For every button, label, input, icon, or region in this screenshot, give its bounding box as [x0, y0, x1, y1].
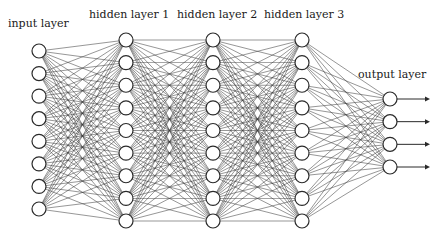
connection-edge — [302, 144, 390, 221]
hidden-1-neuron — [119, 146, 133, 160]
hidden-1-neuron — [119, 101, 133, 115]
output-arrows — [397, 97, 430, 170]
hidden-3-neuron — [295, 101, 309, 115]
hidden-2-neuron — [206, 78, 220, 92]
hidden-2-neuron — [206, 214, 220, 228]
output-neuron — [383, 137, 397, 151]
hidden-3-neuron — [295, 78, 309, 92]
connection-edge — [39, 85, 126, 209]
input-neuron — [32, 67, 46, 81]
hidden-2-neuron — [206, 169, 220, 183]
hidden-1-neuron — [119, 33, 133, 47]
arrowhead-icon — [425, 142, 430, 147]
hidden-3-neuron — [295, 169, 309, 183]
arrowhead-icon — [425, 97, 430, 102]
connection-edge — [39, 40, 126, 96]
output-neuron — [383, 160, 397, 174]
hidden-1-neuron — [119, 78, 133, 92]
neural-network-diagram: input layer hidden layer 1 hidden layer … — [0, 0, 444, 243]
connection-edge — [302, 99, 390, 221]
hidden-2-neuron — [206, 146, 220, 160]
input-neuron — [32, 134, 46, 148]
hidden-3-neuron — [295, 146, 309, 160]
connection-edge — [39, 40, 126, 74]
hidden-1-neuron — [119, 214, 133, 228]
hidden-layer-1-label: hidden layer 1 — [89, 8, 169, 21]
hidden-1-neuron — [119, 191, 133, 205]
connection-edge — [39, 209, 126, 221]
input-neuron — [32, 202, 46, 216]
connection-edge — [39, 40, 126, 119]
input-neuron — [32, 112, 46, 126]
hidden-3-neuron — [295, 124, 309, 138]
connection-edge — [302, 99, 390, 176]
arrowhead-icon — [425, 165, 430, 170]
output-layer-label: output layer — [358, 68, 427, 81]
input-layer-label: input layer — [8, 17, 69, 30]
input-neuron — [32, 179, 46, 193]
input-neuron — [32, 44, 46, 58]
connection-edge — [39, 40, 126, 51]
hidden-3-neuron — [295, 56, 309, 70]
input-neuron — [32, 157, 46, 171]
hidden-2-neuron — [206, 191, 220, 205]
hidden-1-neuron — [119, 124, 133, 138]
connection-edge — [39, 40, 126, 164]
hidden-1-neuron — [119, 56, 133, 70]
hidden-2-neuron — [206, 33, 220, 47]
hidden-2-neuron — [206, 124, 220, 138]
connection-edge — [39, 131, 126, 210]
connection-edge — [302, 85, 390, 99]
hidden-layer-3-label: hidden layer 3 — [264, 8, 344, 21]
hidden-layer-2-label: hidden layer 2 — [177, 8, 257, 21]
hidden-1-neuron — [119, 169, 133, 183]
arrowhead-icon — [425, 119, 430, 124]
hidden-2-neuron — [206, 101, 220, 115]
hidden-2-neuron — [206, 56, 220, 70]
hidden-3-neuron — [295, 214, 309, 228]
connection-edge — [39, 40, 126, 209]
output-neuron — [383, 92, 397, 106]
output-neuron — [383, 115, 397, 129]
input-neuron — [32, 89, 46, 103]
hidden-3-neuron — [295, 191, 309, 205]
hidden-3-neuron — [295, 33, 309, 47]
